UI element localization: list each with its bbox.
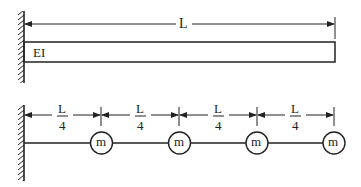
mass-label-3: m — [251, 135, 261, 148]
segment-2-denominator: 4 — [137, 119, 144, 132]
segment-dimensions — [25, 107, 334, 126]
segment-4-numerator: L — [291, 102, 299, 115]
segment-1-numerator: L — [58, 102, 66, 115]
segment-2-numerator: L — [136, 102, 144, 115]
length-label-top: L — [179, 17, 188, 31]
fixed-wall-support-bottom — [18, 105, 24, 181]
mass-label-2: m — [174, 135, 184, 148]
beam-stiffness-label: EI — [33, 46, 45, 59]
mass-label-1: m — [96, 135, 106, 148]
cantilever-beam-figure — [18, 11, 335, 83]
segment-3-denominator: 4 — [215, 119, 222, 132]
segment-3-numerator: L — [214, 102, 222, 115]
beam-body — [24, 42, 335, 62]
fixed-wall-support-top — [18, 11, 24, 83]
mass-label-4: m — [328, 135, 338, 148]
segment-4-denominator: 4 — [292, 119, 299, 132]
segment-1-denominator: 4 — [59, 119, 66, 132]
